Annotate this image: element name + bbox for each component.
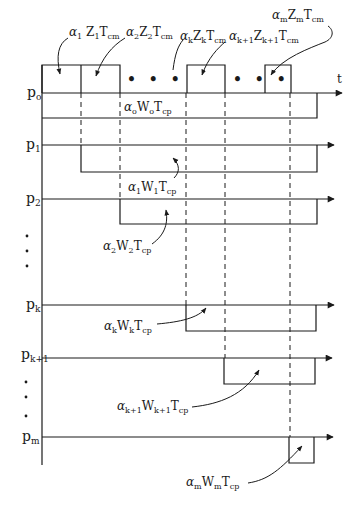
alpha-symbol: α xyxy=(103,239,111,253)
processor-index: 2 xyxy=(35,198,41,208)
time-index: cp xyxy=(167,187,177,196)
time-symbol: T xyxy=(154,100,162,114)
processor-label-p1: p1 xyxy=(26,137,41,154)
pm-compute-block xyxy=(289,437,314,463)
alpha-symbol: α xyxy=(180,29,188,43)
var-symbol: W xyxy=(141,180,153,194)
var-symbol: Z xyxy=(139,25,147,39)
alpha-symbol: α xyxy=(128,180,136,194)
time-axis-label: t xyxy=(337,73,342,85)
ellipsis-right: • • • xyxy=(233,72,290,86)
var-symbol: W xyxy=(137,100,149,114)
var-index: m xyxy=(296,15,304,24)
alpha-symbol: α xyxy=(104,319,112,333)
comp-label-2: α2W2Tcp xyxy=(103,240,151,255)
alpha-symbol: α xyxy=(69,25,77,39)
processor-name: p xyxy=(21,346,30,362)
vertical-ellipsis-lower xyxy=(25,381,28,418)
p1-compute-block xyxy=(81,145,317,172)
time-symbol: T xyxy=(222,475,230,489)
p2-compute-block xyxy=(120,199,317,224)
var-symbol: W xyxy=(142,399,154,413)
alpha-symbol: α xyxy=(272,8,280,22)
time-index: cm xyxy=(161,32,173,41)
processor-label-pk1: pk+1 xyxy=(21,347,49,364)
processor-name: p xyxy=(22,428,31,444)
time-index: cp xyxy=(230,482,240,491)
time-index: cp xyxy=(179,406,189,415)
time-symbol: T xyxy=(134,319,142,333)
alpha-index: m xyxy=(194,482,202,491)
var-symbol: Z xyxy=(288,8,296,22)
comp-label-1: α1W1Tcp xyxy=(128,181,176,196)
time-symbol: T xyxy=(279,29,287,43)
comp-label-k1: αk+1Wk+1Tcp xyxy=(117,400,188,415)
comm-label-k1: αk+1Zk+1Tcm xyxy=(229,30,299,45)
var-index: k+1 xyxy=(262,36,279,45)
processor-index: o xyxy=(36,92,41,102)
comm-label-1: α1 Z1Tcm xyxy=(69,26,120,41)
processor-name: p xyxy=(26,136,35,152)
processor-label-p0: po xyxy=(27,85,41,102)
processor-label-p2: p2 xyxy=(26,191,41,208)
comm-label-k: αkZkTcm xyxy=(180,30,226,45)
alpha-symbol: α xyxy=(124,100,132,114)
processor-index: 1 xyxy=(35,144,41,154)
time-index: cm xyxy=(214,36,226,45)
comp-label-m: αmWmTcp xyxy=(186,476,239,491)
alpha-index: k+1 xyxy=(125,406,142,415)
alpha-symbol: α xyxy=(186,475,194,489)
alpha-index: k+1 xyxy=(237,36,254,45)
var-index: k+1 xyxy=(154,406,171,415)
comm-label-2: α2Z2Tcm xyxy=(126,26,173,41)
time-symbol: T xyxy=(206,29,214,43)
processor-label-pm: pm xyxy=(22,429,40,446)
time-symbol: T xyxy=(153,25,161,39)
time-index: cp xyxy=(162,107,172,116)
comm-label-m: αmZmTcm xyxy=(272,9,324,24)
time-index: cp xyxy=(142,246,152,255)
ellipsis-left: • • • xyxy=(127,72,184,86)
alpha-symbol: α xyxy=(229,29,237,43)
processor-name: p xyxy=(27,84,36,100)
var-symbol: W xyxy=(202,475,214,489)
processor-name: p xyxy=(26,296,35,312)
alpha-index: 1 xyxy=(77,32,82,41)
var-index: m xyxy=(214,482,222,491)
var-symbol: W xyxy=(117,319,129,333)
comp-label-k: αkWkTcp xyxy=(104,320,152,335)
time-index: cm xyxy=(312,15,324,24)
comp-label-0: αoWoTcp xyxy=(124,101,172,116)
alpha-symbol: α xyxy=(117,399,125,413)
time-symbol: T xyxy=(134,239,142,253)
vertical-ellipsis-upper xyxy=(26,235,29,268)
time-symbol: T xyxy=(171,399,179,413)
time-index: cm xyxy=(107,32,119,41)
processor-label-pk: pk xyxy=(26,297,40,314)
processor-index: k+1 xyxy=(30,354,49,364)
time-index: cp xyxy=(142,326,152,335)
alpha-index: m xyxy=(280,15,288,24)
processor-name: p xyxy=(26,190,35,206)
processor-index: m xyxy=(31,436,40,446)
p0-compute-block xyxy=(42,93,317,118)
var-symbol: W xyxy=(116,239,128,253)
computation-callouts xyxy=(152,158,302,483)
var-symbol: Z xyxy=(254,29,262,43)
time-symbol: T xyxy=(159,180,167,194)
time-symbol: T xyxy=(304,8,312,22)
pk1-compute-block xyxy=(224,358,315,384)
time-index: cm xyxy=(287,36,299,45)
alpha-symbol: α xyxy=(126,25,134,39)
processor-index: k xyxy=(35,304,40,314)
